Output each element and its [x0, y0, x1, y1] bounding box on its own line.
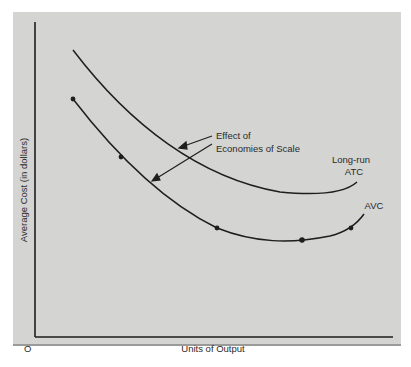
avc-label: AVC [365, 200, 384, 211]
annotation-line2: Economies of Scale [216, 143, 300, 154]
avc-point [299, 237, 305, 243]
x-axis-label: Units of Output [181, 343, 245, 354]
avc-point [71, 97, 76, 102]
atc-label-line1: Long-run [332, 154, 370, 165]
atc-label-line2: ATC [345, 166, 363, 177]
avc-curve [73, 99, 364, 241]
cost-curve-diagram: Effect of Economies of Scale Long-run AT… [0, 0, 411, 367]
avc-point [119, 155, 124, 160]
economies-of-scale-arrows [152, 136, 212, 181]
avc-point [349, 226, 354, 231]
annotation-line1: Effect of [216, 130, 251, 141]
avc-point [215, 226, 220, 231]
origin-label: O [24, 343, 31, 354]
y-axis-label: Average Cost (in dollars) [18, 138, 29, 242]
long-run-atc-curve [73, 50, 357, 194]
